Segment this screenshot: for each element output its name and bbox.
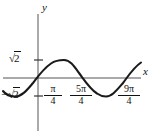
x-tick-label-five-pi-over-4: 5π 4 — [70, 84, 92, 106]
radical-group-negative: √2 — [7, 89, 20, 100]
x-axis-label: x — [143, 66, 148, 77]
fraction-denominator: 4 — [44, 96, 62, 107]
fraction-numerator: π — [44, 84, 62, 96]
fraction-denominator: 4 — [70, 96, 92, 107]
fraction-numerator: 5π — [70, 84, 92, 96]
sine-graph-figure: y x √2 −√2 π 4 5π 4 9π 4 — [0, 0, 155, 139]
fraction-denominator: 4 — [118, 96, 140, 107]
radicand: 2 — [13, 87, 20, 100]
y-axis-label: y — [42, 2, 47, 13]
y-tick-label-negative-sqrt2: −√2 — [1, 89, 20, 100]
x-tick-label-pi-over-4: π 4 — [44, 84, 62, 106]
radicand: 2 — [14, 51, 21, 64]
fraction-numerator: 9π — [118, 84, 140, 96]
y-tick-label-sqrt2: √2 — [8, 53, 21, 64]
radical-group-positive: √2 — [8, 53, 21, 64]
x-tick-label-nine-pi-over-4: 9π 4 — [118, 84, 140, 106]
plot-canvas — [0, 0, 155, 139]
